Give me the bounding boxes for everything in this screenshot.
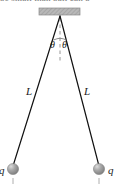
left-angle-label: θ (50, 40, 55, 50)
physics-figure-two-hanging-charges: be small than ball can b (0, 0, 122, 189)
left-length-label: L (26, 86, 32, 97)
right-angle-label: θ (62, 40, 67, 50)
right-charged-ball (93, 163, 104, 174)
right-charge-label: q (108, 165, 114, 176)
left-charged-ball (7, 163, 18, 174)
diagram-canvas (0, 0, 122, 189)
left-charge-label: q (0, 165, 5, 176)
ceiling-support-block (39, 8, 80, 15)
right-length-label: L (84, 86, 90, 97)
